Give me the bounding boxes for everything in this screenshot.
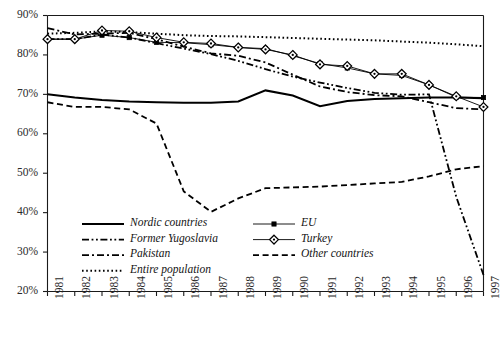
x-tick-label: 1995 bbox=[435, 276, 447, 299]
legend-label: Former Yugoslavia bbox=[130, 232, 218, 244]
y-tick-label: 80% bbox=[4, 47, 38, 59]
x-tick-label: 1987 bbox=[217, 276, 229, 299]
legend-label: Pakistan bbox=[130, 247, 170, 259]
x-tick-label: 1986 bbox=[189, 276, 201, 299]
x-tick-label: 1983 bbox=[108, 276, 120, 299]
chart-axes bbox=[48, 16, 484, 292]
series-other-countries bbox=[48, 102, 484, 212]
y-tick-label: 30% bbox=[4, 245, 38, 257]
legend-sample-turkey bbox=[253, 235, 295, 244]
x-tick-label: 1984 bbox=[135, 276, 147, 299]
legend-label: EU bbox=[301, 216, 316, 228]
y-tick-label: 90% bbox=[4, 8, 38, 20]
y-tick-label: 40% bbox=[4, 205, 38, 217]
legend-label: Entire population bbox=[130, 263, 211, 275]
y-tick-label: 70% bbox=[4, 87, 38, 99]
x-tick-label: 1994 bbox=[407, 276, 419, 299]
series-former-yugoslavia bbox=[48, 34, 484, 275]
axis-ticks bbox=[43, 16, 484, 297]
x-tick-label: 1988 bbox=[244, 276, 256, 299]
legend-label: Other countries bbox=[301, 247, 374, 259]
x-tick-label: 1996 bbox=[462, 276, 474, 299]
x-tick-label: 1989 bbox=[271, 276, 283, 299]
x-tick-label: 1990 bbox=[298, 276, 310, 299]
y-tick-label: 50% bbox=[4, 166, 38, 178]
series-nordic-countries bbox=[48, 90, 484, 106]
x-tick-label: 1997 bbox=[489, 276, 501, 299]
x-tick-label: 1982 bbox=[80, 276, 92, 299]
legend-label: Turkey bbox=[301, 232, 332, 244]
x-tick-label: 1993 bbox=[380, 276, 392, 299]
legend-label: Nordic countries bbox=[130, 216, 207, 228]
x-tick-label: 1991 bbox=[326, 276, 338, 299]
y-tick-label: 60% bbox=[4, 126, 38, 138]
x-tick-label: 1985 bbox=[162, 276, 174, 299]
y-tick-label: 20% bbox=[4, 284, 38, 296]
legend-sample-eu bbox=[253, 222, 295, 226]
x-tick-label: 1981 bbox=[53, 276, 65, 299]
x-tick-label: 1992 bbox=[353, 276, 365, 299]
